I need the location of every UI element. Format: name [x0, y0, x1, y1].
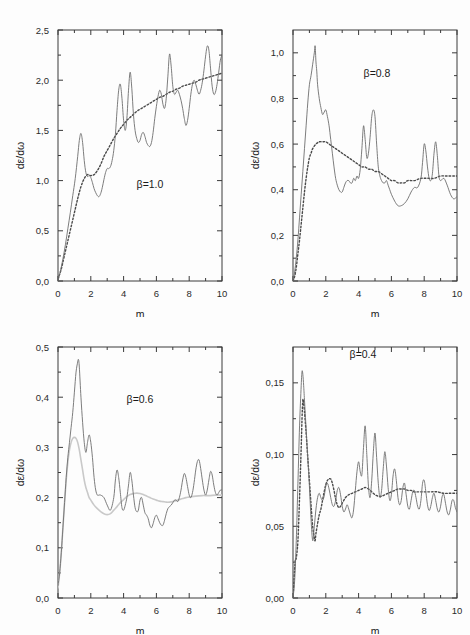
plot-frame: [293, 347, 457, 598]
series-asymptotic-pale: [58, 437, 222, 588]
plot-frame: [58, 30, 222, 281]
panel-beta-0-6-svg: 02468100,00,10,20,30,40,5mdε/dωβ=0.6: [0, 317, 235, 634]
y-tick-label: 0,0: [271, 276, 284, 287]
x-tick-label: 2: [88, 605, 93, 616]
plot-panel-beta-0-8: 02468100,00,20,40,60,81,0mdε/dωβ=0.8: [235, 0, 470, 317]
series-asymptotic-dotted: [58, 73, 222, 279]
x-tick-label: 0: [55, 605, 60, 616]
y-tick-label: 0,0: [36, 593, 49, 604]
y-tick-label: 0,2: [36, 492, 49, 503]
x-tick-label: 10: [452, 288, 463, 299]
x-tick-label: 8: [187, 288, 192, 299]
x-tick-label: 8: [422, 605, 427, 616]
panel-beta-0-8-svg: 02468100,00,20,40,60,81,0mdε/dωβ=0.8: [235, 0, 470, 317]
x-tick-label: 10: [452, 605, 463, 616]
series-asymptotic-dotted: [293, 142, 457, 281]
y-tick-label: 0,10: [266, 449, 285, 460]
y-tick-label: 0,00: [266, 593, 285, 604]
panel-beta-0-4-svg: 02468100,000,050,100,15mdε/dωβ=0.4: [235, 317, 470, 634]
y-tick-label: 0,5: [36, 342, 49, 353]
y-tick-label: 0,8: [271, 93, 284, 104]
x-tick-label: 6: [154, 605, 159, 616]
y-tick-label: 0,3: [36, 442, 49, 453]
plot-panel-beta-0-4: 02468100,000,050,100,15mdε/dωβ=0.4: [235, 317, 470, 634]
series-exact-solid: [293, 371, 457, 598]
x-tick-label: 4: [356, 605, 361, 616]
y-tick-label: 1,5: [36, 125, 49, 136]
y-tick-label: 0,6: [271, 139, 284, 150]
y-axis-title: dε/dω: [14, 459, 26, 486]
y-tick-label: 0,05: [266, 521, 285, 532]
x-tick-label: 4: [356, 288, 361, 299]
y-axis-title: dε/dω: [14, 142, 26, 169]
y-tick-label: 0,4: [271, 184, 284, 195]
plot-panel-beta-0-6: 02468100,00,10,20,30,40,5mdε/dωβ=0.6: [0, 317, 235, 634]
beta-annotation: β=0.8: [364, 67, 391, 79]
curves-group: [58, 46, 222, 281]
y-axis-title: dε/dω: [249, 459, 261, 486]
y-tick-label: 0,0: [36, 276, 49, 287]
plot-panel-beta-1-0: 02468100,00,51,01,52,02,5mdε/dωβ=1.0: [0, 0, 235, 317]
x-axis-title: m: [371, 308, 380, 317]
x-tick-label: 4: [121, 288, 126, 299]
x-tick-label: 8: [187, 605, 192, 616]
y-tick-label: 2,5: [36, 25, 49, 36]
y-tick-label: 0,5: [36, 225, 49, 236]
y-tick-label: 2,0: [36, 75, 49, 86]
y-tick-label: 0,4: [36, 392, 49, 403]
curves-group: [293, 371, 457, 598]
y-axis-title: dε/dω: [249, 142, 261, 169]
x-tick-label: 2: [88, 288, 93, 299]
x-tick-label: 6: [389, 288, 394, 299]
x-tick-label: 10: [217, 605, 228, 616]
x-axis-title: m: [136, 308, 145, 317]
y-tick-label: 0,15: [266, 377, 285, 388]
x-tick-label: 0: [55, 288, 60, 299]
y-tick-label: 1,0: [271, 47, 284, 58]
beta-annotation: β=0.4: [350, 348, 377, 360]
x-axis-title: m: [371, 625, 380, 634]
x-tick-label: 10: [217, 288, 228, 299]
x-tick-label: 6: [154, 288, 159, 299]
x-tick-label: 0: [290, 288, 295, 299]
x-tick-label: 6: [389, 605, 394, 616]
x-axis-title: m: [136, 625, 145, 634]
beta-annotation: β=0.6: [127, 393, 154, 405]
beta-annotation: β=1.0: [137, 178, 164, 190]
x-tick-label: 0: [290, 605, 295, 616]
x-tick-label: 2: [323, 288, 328, 299]
y-tick-label: 1,0: [36, 175, 49, 186]
series-exact-solid: [293, 46, 457, 281]
figure-root: 02468100,00,51,01,52,02,5mdε/dωβ=1.0 024…: [0, 0, 470, 635]
curves-group: [293, 46, 457, 281]
panel-beta-1-0-svg: 02468100,00,51,01,52,02,5mdε/dωβ=1.0: [0, 0, 235, 317]
y-tick-label: 0,2: [271, 230, 284, 241]
y-tick-label: 0,1: [36, 542, 49, 553]
x-tick-label: 8: [422, 288, 427, 299]
x-tick-label: 2: [323, 605, 328, 616]
x-tick-label: 4: [121, 605, 126, 616]
